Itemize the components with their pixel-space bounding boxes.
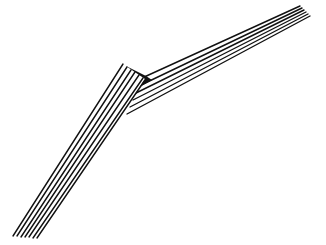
upper-ribbon-band xyxy=(127,6,310,114)
ribbon-illustration xyxy=(0,0,326,245)
lower-ribbon-band xyxy=(13,64,145,238)
